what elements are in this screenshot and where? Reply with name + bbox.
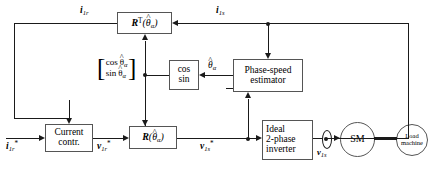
wire-cos-sin-to-trunk bbox=[145, 75, 169, 76]
arrow-into-rotation-transpose bbox=[172, 20, 178, 26]
block-current-controller: Current contr. bbox=[45, 124, 93, 152]
wire-v1s-ref-up-to-estimator bbox=[248, 99, 249, 138]
label-i1r-reference: i1r* bbox=[6, 141, 18, 151]
wire-i1s-vertical-right bbox=[408, 23, 409, 139]
block-load-machine: Load machine bbox=[396, 124, 428, 156]
bracket-left: [ bbox=[97, 58, 105, 79]
label-v1s-reference: v1s* bbox=[200, 141, 214, 151]
arrow-into-current-controller-top bbox=[66, 118, 72, 124]
arrow-into-rotation-matrix-top bbox=[142, 120, 148, 126]
block-cos-sin: cos sin bbox=[169, 60, 199, 90]
matrix-cos-sin-theta: [ cos θ^α sin θ^α ] bbox=[97, 57, 136, 79]
synchronous-machine-label: SM bbox=[350, 134, 364, 144]
phase-speed-estimator-line2: estimator bbox=[250, 76, 285, 86]
label-theta-hat-alpha: θ^α bbox=[208, 60, 216, 70]
arrow-into-rotation-transpose-bottom bbox=[142, 34, 148, 40]
label-i1r-feedback: i1r bbox=[80, 5, 89, 15]
arrow-into-inverter-left bbox=[256, 135, 262, 141]
wire-theta-hat-to-cos-sin bbox=[205, 75, 233, 76]
bracket-right: ] bbox=[128, 58, 136, 79]
label-v1s: v1s bbox=[317, 147, 327, 157]
label-v1r-reference: v1r* bbox=[97, 141, 111, 151]
block-rotation-transpose: RT(θ^α) bbox=[117, 12, 172, 34]
wire-i1s-to-estimator bbox=[268, 23, 269, 53]
wire-i1r-left-down bbox=[14, 23, 15, 118]
current-controller-line2: contr. bbox=[58, 138, 79, 148]
arrow-into-rotation-matrix-left bbox=[123, 135, 129, 141]
block-rotation-matrix-label: R(θ^α) bbox=[142, 132, 164, 142]
cos-sin-line2: sin bbox=[178, 75, 189, 85]
arrow-into-estimator-bottom bbox=[245, 92, 251, 98]
wire-estimator-left-stub bbox=[226, 88, 233, 89]
wire-v1s-ref bbox=[177, 138, 256, 139]
wire-i1r-drop-into-controller bbox=[69, 100, 70, 118]
block-phase-speed-estimator: Phase-speed estimator bbox=[233, 59, 303, 92]
arrow-into-cos-sin bbox=[199, 72, 205, 78]
wire-i1r-from-transpose bbox=[14, 23, 117, 24]
block-ideal-two-phase-inverter: Ideal 2-phase inverter bbox=[262, 120, 313, 160]
load-machine-line2: machine bbox=[401, 140, 423, 147]
matrix-row-cos: cos θ^α bbox=[106, 57, 128, 68]
junction-v1s-right-bus bbox=[324, 137, 328, 141]
wire-angle-trunk bbox=[145, 41, 146, 126]
matrix-row-sin: sin θ^α bbox=[106, 68, 128, 79]
arrow-into-current-controller-left bbox=[39, 135, 45, 141]
inverter-line3: inverter bbox=[266, 145, 296, 155]
wire-i1r-to-controller bbox=[14, 118, 69, 119]
block-rotation-matrix: R(θ^α) bbox=[129, 126, 177, 149]
block-diagram-canvas: RT(θ^α) Phase-speed estimator cos sin Cu… bbox=[0, 0, 442, 172]
wire-i1r-ref-input bbox=[6, 138, 39, 139]
wire-v1r-ref bbox=[93, 138, 123, 139]
wire-i1s-top-horizontal bbox=[178, 23, 409, 24]
block-synchronous-machine: SM bbox=[340, 122, 375, 157]
block-rotation-transpose-label: RT(θ^α) bbox=[131, 18, 157, 28]
mechanical-shaft bbox=[374, 137, 397, 140]
arrow-into-estimator-top bbox=[265, 53, 271, 59]
label-i1s-measured: i1s bbox=[216, 5, 225, 15]
